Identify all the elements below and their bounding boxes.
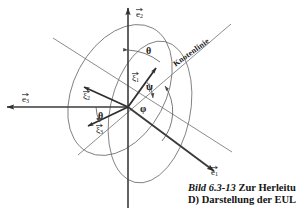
angle-label-theta-left: θ xyxy=(98,111,103,121)
angle-label-psi: ψ xyxy=(146,82,153,92)
vector-label-xi1-sub: 1 xyxy=(136,77,139,83)
axis-label-e1-sub: 1 xyxy=(215,171,218,177)
vector-bar-icon xyxy=(132,71,139,75)
vector-label-xi3: ξ3 xyxy=(96,126,103,135)
figure-number: Bild 6.3-13 xyxy=(188,182,236,193)
vector-bar-icon xyxy=(96,123,103,127)
figure-caption: Bild 6.3-13 Zur Herleitu D) Darstellung … xyxy=(188,182,305,206)
vector-label-xi2-sub: 2 xyxy=(87,95,90,101)
figure-caption-line1: Bild 6.3-13 Zur Herleitu xyxy=(188,182,305,194)
vector-label-xi2: ξ2 xyxy=(83,92,90,101)
figure-subtitle: D) Darstellung der EUL xyxy=(188,194,305,206)
vector-bar-icon xyxy=(83,89,90,93)
angle-label-phi: φ xyxy=(140,104,146,114)
axis-label-e3-sub: 3 xyxy=(26,98,29,104)
vector-bar-icon xyxy=(136,7,143,11)
axis-label-e2: e2 xyxy=(136,10,143,19)
axis-e1 xyxy=(128,107,214,171)
axis-label-e3: e3 xyxy=(22,95,29,104)
vector-label-xi1: ξ1 xyxy=(132,74,139,83)
axis-label-e1: e1 xyxy=(211,168,218,177)
vector-bar-icon xyxy=(22,92,29,96)
euler-diagram-canvas xyxy=(0,0,305,210)
vector-bar-icon xyxy=(211,165,218,169)
axis-label-e2-sub: 2 xyxy=(140,13,143,19)
plane-ellipse-xi xyxy=(47,7,194,174)
figure-title: Zur Herleitu xyxy=(238,182,295,193)
euler-angle-figure: e2 e3 e1 ξ1 ξ2 ξ3 θ θ ψ xyxy=(0,0,305,210)
angle-label-theta-top: θ xyxy=(146,46,151,56)
vector-xi2 xyxy=(84,87,128,107)
vector-label-xi3-sub: 3 xyxy=(100,129,103,135)
